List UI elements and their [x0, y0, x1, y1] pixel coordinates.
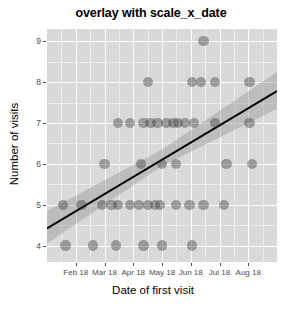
- data-point: [184, 200, 194, 210]
- data-point: [157, 240, 167, 250]
- y-tick-mark: [43, 82, 46, 83]
- x-tick-mark: [248, 263, 249, 266]
- data-point: [198, 36, 208, 46]
- data-point: [247, 159, 257, 169]
- data-point: [76, 200, 86, 210]
- x-axis-title: Date of first visit: [0, 284, 290, 296]
- y-tick-mark: [43, 246, 46, 247]
- data-point: [244, 77, 254, 87]
- x-tick-mark: [105, 263, 106, 266]
- y-tick-label: 8: [29, 77, 41, 87]
- data-point: [155, 200, 165, 210]
- data-point: [198, 200, 208, 210]
- y-tick-label: 4: [29, 241, 41, 251]
- y-tick-mark: [43, 205, 46, 206]
- data-point: [125, 118, 135, 128]
- y-tick-mark: [43, 41, 46, 42]
- y-tick-label: 9: [29, 36, 41, 46]
- confidence-ribbon: [47, 72, 277, 244]
- y-axis-title: Number of visits: [8, 84, 20, 204]
- data-point: [171, 200, 181, 210]
- chart-container: overlay with scale_x_date Number of visi…: [0, 0, 290, 317]
- plot-panel: [47, 29, 277, 262]
- y-tick-label: 6: [29, 159, 41, 169]
- data-point: [88, 240, 98, 250]
- x-tick-label: Aug 18: [228, 268, 268, 277]
- x-tick-mark: [133, 263, 134, 266]
- data-point: [138, 240, 148, 250]
- y-tick-mark: [43, 164, 46, 165]
- x-tick-mark: [220, 263, 221, 266]
- x-tick-mark: [162, 263, 163, 266]
- y-tick-mark: [43, 123, 46, 124]
- data-point: [221, 159, 231, 169]
- y-tick-label: 7: [29, 118, 41, 128]
- chart-title: overlay with scale_x_date: [0, 6, 290, 20]
- y-tick-label: 5: [29, 200, 41, 210]
- data-point: [99, 159, 109, 169]
- data-point: [60, 240, 70, 250]
- data-point: [171, 159, 181, 169]
- x-tick-mark: [76, 263, 77, 266]
- data-point: [111, 240, 121, 250]
- x-tick-mark: [191, 263, 192, 266]
- data-point: [187, 240, 197, 250]
- trend-overlay: [47, 29, 277, 262]
- data-point: [244, 118, 254, 128]
